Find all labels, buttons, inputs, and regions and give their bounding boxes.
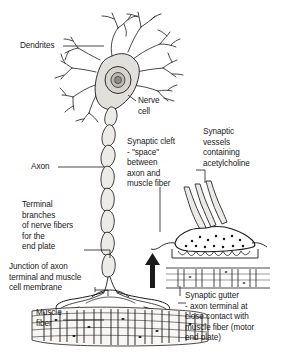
- label-nerve-cell: Nerve cell: [138, 96, 160, 117]
- magnify-arrow: [145, 253, 160, 288]
- axon-terminal-bulb: [175, 227, 255, 252]
- nerve-cell-body: [95, 54, 139, 110]
- synapse-detail-inset: [151, 181, 270, 288]
- label-muscle-fiber: Muscle fiber: [36, 308, 62, 329]
- leader-synaptic-vessels: [196, 170, 205, 183]
- myelinated-axon: [101, 107, 117, 277]
- label-synaptic-vessels: Synaptic vessels containing acetylcholin…: [203, 127, 250, 169]
- label-terminal-branches: Terminal branches of nerve fibers for th…: [22, 200, 73, 253]
- label-axon: Axon: [31, 162, 49, 173]
- label-synaptic-cleft: Synaptic cleft - "space" between axon an…: [127, 137, 175, 190]
- label-dendrites: Dendrites: [20, 41, 55, 52]
- figure-canvas: Dendrites Nerve cell Axon Synaptic cleft…: [0, 0, 281, 359]
- label-junction: Junction of axon terminal and muscle cel…: [9, 262, 81, 294]
- nucleolus: [115, 76, 122, 83]
- label-synaptic-gutter: Synaptic gutter - axon terminal at close…: [185, 291, 254, 344]
